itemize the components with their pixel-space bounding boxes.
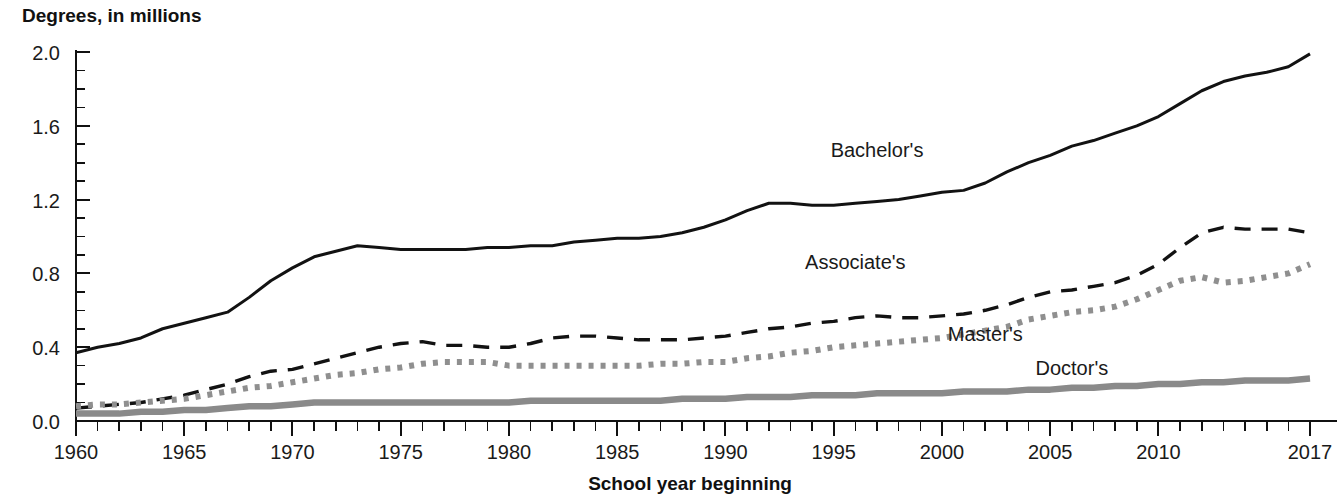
x-tick-label: 1980 [487,441,532,463]
y-tick-label: 1.6 [32,116,60,138]
series-label-doctor-s: Doctor's [1035,357,1108,379]
degrees-line-chart: Degrees, in millions 0.00.40.81.21.62.0 … [0,0,1337,503]
chart-title: Degrees, in millions [22,5,202,26]
chart-svg: Degrees, in millions 0.00.40.81.21.62.0 … [0,0,1337,503]
x-tick-label: 1975 [378,441,423,463]
x-tick-label: 1960 [54,441,99,463]
x-axis-title: School year beginning [588,473,792,494]
series-annotations: Bachelor'sAssociate'sMaster'sDoctor's [805,139,1108,380]
y-tick-label: 2.0 [32,42,60,64]
y-tick-label: 0.8 [32,263,60,285]
series-label-master-s: Master's [948,323,1023,345]
series-line-associate-s [76,227,1310,408]
x-tick-label: 2010 [1136,441,1181,463]
y-axis-ticks: 0.00.40.81.21.62.0 [32,42,90,433]
y-tick-label: 1.2 [32,190,60,212]
x-tick-label: 1965 [162,441,207,463]
y-tick-label: 0.4 [32,337,60,359]
series-label-bachelor-s: Bachelor's [831,139,924,161]
x-tick-label: 1990 [703,441,748,463]
x-tick-label: 1995 [811,441,856,463]
series-line-doctor-s [76,379,1310,414]
x-tick-label: 1985 [595,441,640,463]
series-lines [76,54,1310,414]
x-tick-label: 1970 [270,441,315,463]
series-label-associate-s: Associate's [805,251,906,273]
x-tick-label: 2000 [920,441,965,463]
x-tick-label: 2017 [1288,441,1333,463]
series-line-bachelor-s [76,54,1310,353]
x-tick-label: 2005 [1028,441,1073,463]
y-tick-label: 0.0 [32,411,60,433]
x-axis-ticks: 1960196519701975198019851990199520002005… [54,421,1333,463]
